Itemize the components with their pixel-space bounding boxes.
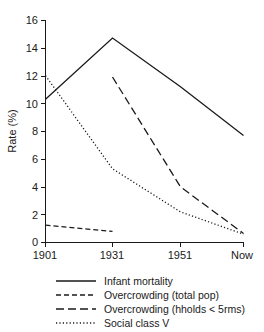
x-tick-label-1951: 1951: [168, 249, 192, 261]
legend-line-sample-dotted: [56, 317, 96, 329]
series-group: [46, 38, 244, 234]
y-tick-label-8: 8: [32, 125, 38, 137]
chart-figure: Rate (%) 16 14 12 10 8 6 4 2 0: [0, 0, 264, 332]
y-tick-label-10: 10: [26, 98, 38, 110]
x-tick-label-1901: 1901: [33, 249, 57, 261]
legend-label: Overcrowding (hholds < 5rms): [104, 303, 245, 315]
y-tick-label-14: 14: [26, 42, 38, 54]
chart-legend: Infant mortality Overcrowding (total pop…: [56, 274, 262, 330]
series-infant-mortality: [46, 38, 244, 135]
x-tick-label-1931: 1931: [100, 249, 124, 261]
legend-line-sample-dashed-short: [56, 289, 96, 301]
legend-label: Overcrowding (total pop): [104, 289, 219, 301]
y-tick-label-16: 16: [26, 14, 38, 26]
legend-entry-social-class-v: Social class V: [56, 316, 262, 330]
legend-line-sample-dashed-long: [56, 303, 96, 315]
series-overcrowding-total-pop: [46, 225, 113, 231]
legend-label: Infant mortality: [104, 275, 173, 287]
x-tick-label-now: Now: [231, 249, 253, 261]
legend-entry-infant-mortality: Infant mortality: [56, 274, 262, 288]
y-tick-label-6: 6: [32, 153, 38, 165]
x-axis-ticks: [46, 243, 244, 248]
legend-entry-overcrowding-hholds: Overcrowding (hholds < 5rms): [56, 302, 262, 316]
y-tick-label-0: 0: [32, 236, 38, 248]
y-tick-label-12: 12: [26, 70, 38, 82]
series-social-class-v: [46, 76, 244, 235]
y-tick-label-2: 2: [32, 209, 38, 221]
series-overcrowding-hholds-under-5rms: [113, 77, 244, 233]
legend-line-sample-solid: [56, 275, 96, 287]
y-axis-title: Rate (%): [6, 109, 18, 152]
y-axis-ticks: [41, 21, 46, 243]
y-tick-label-4: 4: [32, 181, 38, 193]
legend-label: Social class V: [104, 317, 169, 329]
legend-entry-overcrowding-total-pop: Overcrowding (total pop): [56, 288, 262, 302]
